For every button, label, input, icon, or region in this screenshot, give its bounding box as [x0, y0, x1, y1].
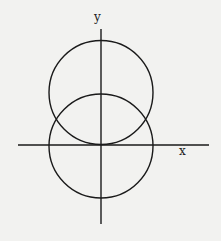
x-axis-label: x [179, 145, 186, 157]
diagram-canvas [0, 0, 221, 241]
y-axis-label: y [94, 11, 101, 23]
